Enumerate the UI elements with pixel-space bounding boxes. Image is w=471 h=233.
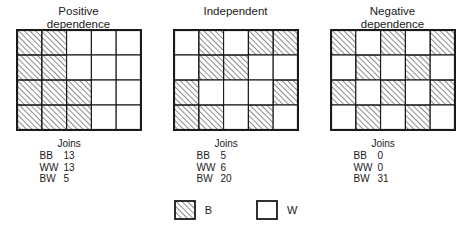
stat-row: WW 0 xyxy=(354,162,456,174)
grid-negative-dependence xyxy=(330,29,456,131)
stat-value: 6 xyxy=(221,162,227,174)
stat-row: BB 5 xyxy=(197,150,299,162)
stat-key: BW xyxy=(197,173,221,185)
join-stats-heading: Joins xyxy=(40,138,142,150)
panel-negative-dependence: Negative dependence Joins BB 0 WW 0 BW 3… xyxy=(314,0,471,185)
stat-value: 5 xyxy=(221,150,227,162)
stat-key: BB xyxy=(354,150,378,162)
stat-key: WW xyxy=(197,162,221,174)
stat-row: BB 13 xyxy=(40,150,142,162)
stat-key: WW xyxy=(354,162,378,174)
grid-svg xyxy=(16,29,142,131)
panel-positive-dependence: Positive dependence Joins BB 13 WW 13 BW… xyxy=(0,0,157,185)
join-stats: Joins BB 5 WW 6 BW 20 xyxy=(173,138,299,185)
stat-row: BW 20 xyxy=(197,173,299,185)
stat-value: 13 xyxy=(64,150,75,162)
legend-item-white: W xyxy=(256,200,297,220)
panel-independent: Independent Joins BB 5 WW 6 BW 20 xyxy=(157,0,314,185)
stat-row: BB 0 xyxy=(354,150,456,162)
panel-row: Positive dependence Joins BB 13 WW 13 BW… xyxy=(0,0,471,185)
join-stats-heading: Joins xyxy=(197,138,299,150)
legend-label: B xyxy=(205,204,212,216)
join-stats: Joins BB 0 WW 0 BW 31 xyxy=(330,138,456,185)
join-stats: Joins BB 13 WW 13 BW 5 xyxy=(16,138,142,185)
stat-value: 20 xyxy=(221,173,232,185)
panel-title: Positive dependence xyxy=(47,0,110,29)
stat-key: WW xyxy=(40,162,64,174)
legend-item-black: B xyxy=(174,200,212,220)
join-stats-heading: Joins xyxy=(354,138,456,150)
stat-key: BW xyxy=(40,173,64,185)
legend-swatch-hatched xyxy=(174,200,196,220)
stat-row: WW 6 xyxy=(197,162,299,174)
grid-independent xyxy=(173,29,299,131)
stat-value: 5 xyxy=(64,173,70,185)
legend-label: W xyxy=(287,204,297,216)
stat-key: BW xyxy=(354,173,378,185)
stat-value: 13 xyxy=(64,162,75,174)
stat-value: 0 xyxy=(378,150,384,162)
stat-row: WW 13 xyxy=(40,162,142,174)
stat-key: BB xyxy=(40,150,64,162)
legend-swatch-white xyxy=(256,200,278,220)
legend: B W xyxy=(0,200,471,220)
stat-value: 31 xyxy=(378,173,389,185)
stat-row: BW 5 xyxy=(40,173,142,185)
grid-svg xyxy=(173,29,299,131)
panel-title: Negative dependence xyxy=(361,0,424,29)
stat-value: 0 xyxy=(378,162,384,174)
join-count-figure: Positive dependence Joins BB 13 WW 13 BW… xyxy=(0,0,471,233)
stat-key: BB xyxy=(197,150,221,162)
grid-svg xyxy=(330,29,456,131)
stat-row: BW 31 xyxy=(354,173,456,185)
grid-positive-dependence xyxy=(16,29,142,131)
panel-title: Independent xyxy=(204,0,268,29)
